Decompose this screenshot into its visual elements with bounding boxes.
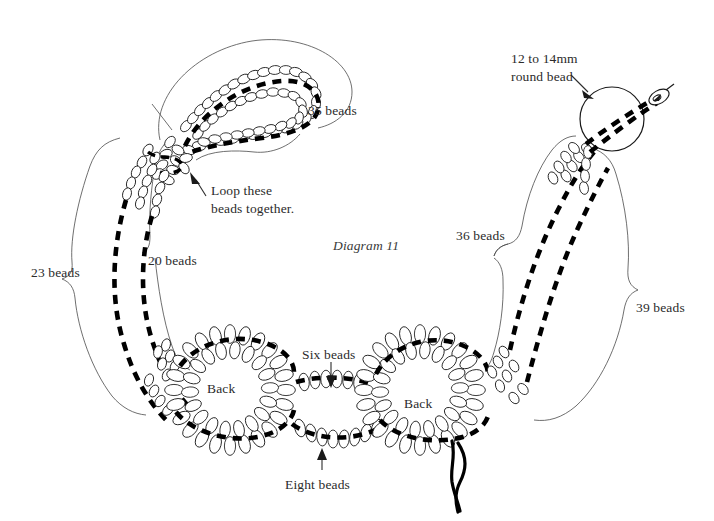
- label-loop-line2: beads together.: [211, 201, 294, 217]
- label-39-beads: 39 beads: [636, 300, 685, 316]
- left-neck-strands: [114, 154, 192, 422]
- right-rosette: [355, 325, 489, 456]
- top-loop-beadwork: [178, 65, 323, 156]
- label-23-beads: 23 beads: [31, 265, 80, 281]
- needle-icon: [646, 84, 674, 108]
- diagram-title: Diagram 11: [333, 238, 399, 254]
- label-round-bead-line2: round bead: [511, 69, 573, 85]
- label-round-bead-line1: 12 to 14mm: [511, 51, 578, 67]
- right-neck-strands: [486, 140, 608, 405]
- beadwork-illustration: [0, 0, 714, 521]
- thread-tails: [452, 441, 465, 512]
- measurement-braces: [62, 40, 638, 421]
- diagram-canvas: 35 beads 23 beads 20 beads 36 beads 39 b…: [0, 0, 714, 521]
- label-back-right: Back: [404, 396, 432, 412]
- label-six-beads: Six beads: [302, 347, 355, 363]
- label-35-beads: 35 beads: [308, 103, 357, 119]
- label-20-beads: 20 beads: [148, 253, 197, 269]
- round-bead-and-needle: [580, 84, 674, 152]
- center-bridge-beadwork: [292, 370, 386, 448]
- label-36-beads: 36 beads: [456, 228, 505, 244]
- label-eight-beads: Eight beads: [285, 477, 350, 493]
- label-back-left: Back: [207, 381, 235, 397]
- label-loop-line1: Loop these: [211, 183, 272, 199]
